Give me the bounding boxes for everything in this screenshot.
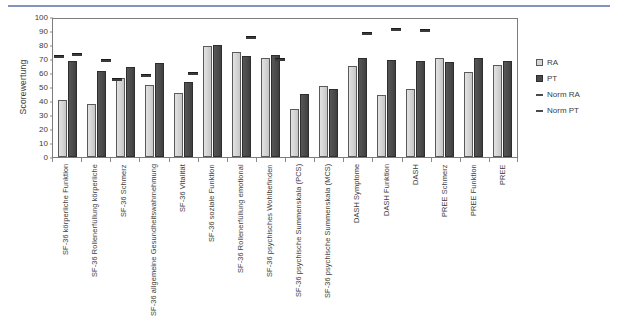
x-axis-label: PREE Schmerz bbox=[441, 164, 450, 335]
x-axis-tick bbox=[227, 158, 256, 162]
bar-pt[interactable] bbox=[68, 61, 77, 157]
x-axis-tick bbox=[431, 158, 460, 162]
y-axis-tick-90: 90 bbox=[39, 28, 48, 36]
norm-pt-marker bbox=[72, 53, 82, 56]
x-axis-label-cell: PREE Schmerz bbox=[431, 164, 460, 335]
legend-swatch-icon bbox=[536, 59, 543, 66]
legend-label: Norm RA bbox=[547, 90, 580, 99]
norm-ra-marker bbox=[54, 55, 64, 58]
x-axis-tick bbox=[314, 158, 343, 162]
bar-pt[interactable] bbox=[97, 71, 106, 157]
bar-group bbox=[372, 19, 401, 157]
norm-ra-marker bbox=[141, 74, 151, 77]
x-axis-label: PREE Funktion bbox=[470, 164, 479, 335]
x-axis-label-cell: PREE bbox=[489, 164, 518, 335]
bar-pt[interactable] bbox=[387, 60, 396, 157]
legend-item[interactable]: Norm PT bbox=[536, 106, 618, 115]
bar-ra[interactable] bbox=[174, 93, 183, 157]
y-axis-tick-10: 10 bbox=[39, 140, 48, 148]
x-axis-tick bbox=[52, 158, 81, 162]
x-axis-tick bbox=[343, 158, 372, 162]
bar-ra[interactable] bbox=[377, 95, 386, 157]
bar-group bbox=[53, 19, 82, 157]
bar-pt[interactable] bbox=[126, 67, 135, 157]
bar-group bbox=[430, 19, 459, 157]
bar-ra[interactable] bbox=[290, 109, 299, 157]
y-axis-tick-50: 50 bbox=[39, 84, 48, 92]
x-axis-label: SF-36 Rollenerfüllung körperliche bbox=[91, 164, 100, 335]
norm-pt-marker bbox=[188, 72, 198, 75]
bar-group bbox=[256, 19, 285, 157]
bar-ra[interactable] bbox=[203, 46, 212, 157]
bar-pt[interactable] bbox=[329, 89, 338, 157]
bar-ra[interactable] bbox=[145, 85, 154, 157]
x-axis-label-cell: SF-36 Rollenerfüllung emotional bbox=[227, 164, 256, 335]
bar-pt[interactable] bbox=[474, 58, 483, 157]
x-axis-label: SF-36 körperliche Funktion bbox=[62, 164, 71, 335]
bar-pt[interactable] bbox=[503, 61, 512, 157]
x-axis-label: DASH bbox=[412, 164, 421, 335]
x-axis-tick bbox=[139, 158, 168, 162]
bar-pt[interactable] bbox=[416, 61, 425, 157]
bar-pt[interactable] bbox=[242, 56, 251, 157]
legend-dash-icon bbox=[536, 110, 543, 112]
x-axis-label-cell: SF-36 soziale Funktion bbox=[198, 164, 227, 335]
x-axis-label: PREE bbox=[499, 164, 508, 335]
x-axis-label: DASH Symptome bbox=[353, 164, 362, 335]
legend-item[interactable]: Norm RA bbox=[536, 90, 618, 99]
x-axis-tick-end bbox=[517, 158, 518, 162]
plot-area bbox=[52, 18, 518, 158]
norm-pt-marker bbox=[391, 28, 401, 31]
bar-ra[interactable] bbox=[464, 72, 473, 157]
bar-ra[interactable] bbox=[58, 100, 67, 157]
bar-group bbox=[314, 19, 343, 157]
x-axis-label-cell: SF-36 allgemeine Gesundheitswahrnehmung bbox=[139, 164, 168, 335]
x-axis-tick bbox=[198, 158, 227, 162]
bar-pt[interactable] bbox=[184, 82, 193, 157]
y-axis-tick-40: 40 bbox=[39, 98, 48, 106]
x-axis-tick bbox=[110, 158, 139, 162]
bar-chart-figure: Scorewertung 0102030405060708090100 SF-3… bbox=[0, 10, 618, 335]
legend-label: PT bbox=[547, 74, 557, 83]
y-axis-tick-20: 20 bbox=[39, 126, 48, 134]
bar-ra[interactable] bbox=[348, 66, 357, 157]
legend-item[interactable]: RA bbox=[536, 58, 618, 67]
y-axis-tick-70: 70 bbox=[39, 56, 48, 64]
bar-pt[interactable] bbox=[445, 62, 454, 157]
x-axis-label: SF-36 psychisches Wohlbefinden bbox=[266, 164, 275, 335]
x-axis-label-cell: SF-36 Schmerz bbox=[110, 164, 139, 335]
x-axis-ticks bbox=[52, 158, 518, 162]
x-axis-label: DASH Funktion bbox=[383, 164, 392, 335]
x-axis-label: SF-36 psychische Summenskala (PCS) bbox=[295, 164, 304, 335]
chart-legend: RAPTNorm RANorm PT bbox=[536, 58, 618, 122]
bar-ra[interactable] bbox=[406, 89, 415, 157]
bar-group bbox=[285, 19, 314, 157]
bar-pt[interactable] bbox=[271, 55, 280, 157]
legend-item[interactable]: PT bbox=[536, 74, 618, 83]
bar-pt[interactable] bbox=[213, 45, 222, 157]
bar-pt[interactable] bbox=[155, 63, 164, 157]
bar-ra[interactable] bbox=[319, 86, 328, 157]
bar-group bbox=[343, 19, 372, 157]
y-axis-tick-0: 0 bbox=[44, 154, 48, 162]
x-axis-label-cell: DASH bbox=[402, 164, 431, 335]
x-axis-label-cell: SF-36 Vitalität bbox=[169, 164, 198, 335]
bar-ra[interactable] bbox=[435, 58, 444, 157]
top-divider-rule bbox=[8, 5, 610, 7]
x-axis-tick bbox=[256, 158, 285, 162]
x-axis-category-labels: SF-36 körperliche FunktionSF-36 Rollener… bbox=[52, 164, 518, 335]
norm-ra-marker bbox=[112, 78, 122, 81]
bar-ra[interactable] bbox=[493, 65, 502, 157]
y-axis-tick-100: 100 bbox=[35, 14, 48, 22]
bar-ra[interactable] bbox=[261, 58, 270, 157]
bar-ra[interactable] bbox=[87, 104, 96, 157]
x-axis-label-cell: PREE Funktion bbox=[460, 164, 489, 335]
bar-pt[interactable] bbox=[358, 58, 367, 157]
bar-group bbox=[140, 19, 169, 157]
x-axis-label: SF-36 allgemeine Gesundheitswahrnehmung bbox=[150, 164, 159, 335]
bar-ra[interactable] bbox=[232, 52, 241, 157]
x-axis-label-cell: SF-36 körperliche Funktion bbox=[52, 164, 81, 335]
x-axis-tick bbox=[460, 158, 489, 162]
bar-ra[interactable] bbox=[116, 78, 125, 157]
bar-pt[interactable] bbox=[300, 94, 309, 157]
